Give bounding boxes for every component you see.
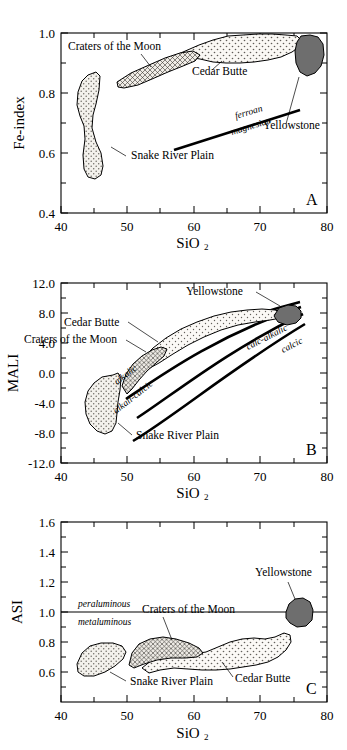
y-tick-label-c-4: 0.8 — [39, 635, 55, 650]
x-tick-label-b-0: 40 — [55, 469, 68, 484]
x-tick-label-b-4: 80 — [321, 469, 334, 484]
leader-snake-river-plain-c — [110, 672, 126, 681]
field-label-snake-river-plain-a: Snake River Plain — [131, 149, 214, 161]
leader-craters-of-the-moon-a — [141, 54, 151, 67]
x-tick-label-c-1: 50 — [121, 708, 134, 723]
leader-yellowstone-b — [256, 292, 280, 306]
field-yellowstone-c — [286, 598, 313, 627]
x-axis-title-a: SiO — [176, 235, 200, 250]
leader-snake-river-plain-b — [118, 423, 132, 435]
leader-craters-of-the-moon-c — [163, 617, 172, 640]
field-label-cedar-butte-c: Cedar Butte — [235, 672, 290, 684]
field-label-craters-of-the-moon-c: Craters of the Moon — [142, 603, 235, 615]
field-snake-river-plain-c — [77, 643, 126, 676]
y-tick-label-a-1: 0.8 — [39, 86, 55, 101]
y-tick-label-c-5: 0.6 — [39, 665, 56, 680]
panel-b-svg: 12.0 8.0 4.0 0.0 -4.0 -8.0 -12.0 40 50 6… — [0, 250, 347, 500]
x-tick-label-c-4: 80 — [321, 708, 334, 723]
y-tick-label-b-5: -8.0 — [34, 426, 55, 441]
leader-yellowstone-a — [286, 77, 299, 124]
field-snake-river-plain-a — [77, 72, 103, 179]
field-label-cedar-butte-b: Cedar Butte — [64, 316, 119, 328]
field-label-snake-river-plain-c: Snake River Plain — [130, 675, 213, 687]
y-tick-label-b-6: -12.0 — [28, 456, 55, 471]
boundary-label-metaluminous: metaluminous — [78, 617, 132, 627]
x-tick-label-c-0: 40 — [55, 708, 68, 723]
x-tick-label-b-2: 60 — [188, 469, 201, 484]
field-label-yellowstone-c: Yellowstone — [255, 566, 312, 578]
field-label-craters-of-the-moon-a: Craters of the Moon — [68, 40, 161, 52]
x-tick-label-a-4: 80 — [321, 219, 334, 234]
field-label-yellowstone-b: Yellowstone — [186, 285, 243, 297]
x-tick-label-a-1: 50 — [121, 219, 134, 234]
leader-cedar-butte-b — [128, 322, 158, 342]
field-label-yellowstone-a: Yellowstone — [263, 119, 320, 131]
y-tick-label-c-3: 1.0 — [39, 605, 55, 620]
leader-snake-river-plain-a — [111, 147, 126, 156]
x-axis-title-c: SiO — [176, 725, 200, 741]
y-tick-label-b-3: 0.0 — [39, 366, 55, 381]
y-tick-label-b-4: -4.0 — [34, 396, 55, 411]
x-axis-title-a-sub: 2 — [204, 242, 209, 250]
x-tick-label-a-2: 60 — [188, 219, 201, 234]
x-axis-title-b: SiO — [176, 485, 200, 500]
x-axis-title-c-sub: 2 — [204, 732, 209, 742]
figure-three-panel-geochemistry: 1.0 0.8 0.6 0.4 40 50 60 70 80 Fe-index … — [0, 0, 347, 750]
y-axis-title-c: ASI — [9, 600, 25, 624]
x-tick-label-b-1: 50 — [121, 469, 134, 484]
panel-c-svg: 1.6 1.4 1.2 1.0 0.8 0.6 40 50 60 70 80 A… — [0, 500, 347, 750]
leader-yellowstone-c — [288, 582, 295, 599]
panel-b-mali: 12.0 8.0 4.0 0.0 -4.0 -8.0 -12.0 40 50 6… — [0, 250, 347, 500]
panel-letter-c: C — [306, 680, 317, 697]
y-tick-label-c-2: 1.2 — [39, 575, 55, 590]
field-label-craters-of-the-moon-b: Craters of the Moon — [24, 333, 117, 345]
x-tick-label-c-2: 60 — [188, 708, 201, 723]
x-axis-title-b-sub: 2 — [204, 492, 209, 500]
field-yellowstone-a — [295, 35, 324, 76]
y-axis-title-b: MALI — [5, 354, 21, 392]
y-tick-label-b-0: 12.0 — [32, 276, 55, 291]
x-tick-label-c-3: 70 — [254, 708, 267, 723]
panel-c-asi: 1.6 1.4 1.2 1.0 0.8 0.6 40 50 60 70 80 A… — [0, 500, 347, 750]
panel-a-svg: 1.0 0.8 0.6 0.4 40 50 60 70 80 Fe-index … — [0, 0, 347, 250]
x-tick-label-a-3: 70 — [254, 219, 267, 234]
y-tick-label-a-0: 1.0 — [39, 26, 55, 41]
y-tick-label-b-1: 8.0 — [39, 306, 55, 321]
panel-letter-a: A — [306, 191, 318, 208]
y-tick-label-c-0: 1.6 — [39, 515, 56, 530]
field-craters-of-the-moon-a — [117, 51, 200, 88]
panel-letter-b: B — [306, 441, 317, 458]
x-tick-label-b-3: 70 — [254, 469, 267, 484]
boundary-label-peraluminous: peraluminous — [77, 599, 131, 609]
y-tick-label-c-1: 1.4 — [39, 545, 56, 560]
y-axis-title-a: Fe-index — [11, 96, 27, 150]
x-tick-label-a-0: 40 — [55, 219, 68, 234]
field-label-cedar-butte-a: Cedar Butte — [192, 65, 247, 77]
y-tick-label-a-2: 0.6 — [39, 146, 56, 161]
field-label-snake-river-plain-b: Snake River Plain — [136, 429, 219, 441]
y-tick-label-a-3: 0.4 — [39, 206, 56, 221]
leader-craters-of-the-moon-b — [126, 340, 146, 352]
panel-a-fe-index: 1.0 0.8 0.6 0.4 40 50 60 70 80 Fe-index … — [0, 0, 347, 250]
